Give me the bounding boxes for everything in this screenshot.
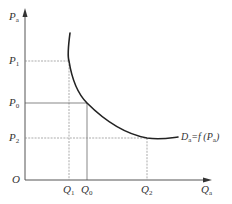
y-axis-label: Pa (9, 11, 19, 24)
x-tick-q0: Q0 (81, 184, 92, 197)
guide-lines (25, 61, 147, 180)
y-axis-arrow-icon (23, 8, 28, 17)
y-tick-p1-sub: 1 (16, 60, 20, 68)
x-tick-q1-base: Q (63, 183, 71, 195)
origin-label: O (12, 174, 20, 185)
x-tick-q1: Q1 (63, 184, 74, 197)
x-tick-q2: Q2 (141, 184, 152, 197)
x-tick-q1-sub: 1 (71, 189, 75, 197)
x-tick-q0-sub: 0 (89, 189, 93, 197)
y-tick-p0: P0 (9, 97, 19, 110)
demand-curve (68, 33, 178, 139)
y-tick-p2-sub: 2 (16, 137, 20, 145)
curve-label-end: ) (216, 131, 219, 142)
y-tick-p0-base: P (9, 96, 16, 108)
y-tick-p2: P2 (9, 132, 19, 145)
y-tick-p1: P1 (9, 55, 19, 68)
x-axis-label: Qa (201, 184, 212, 197)
x-tick-q2-base: Q (141, 183, 149, 195)
x-axis-arrow-icon (203, 178, 212, 183)
x-tick-q0-base: Q (81, 183, 89, 195)
y-tick-p0-sub: 0 (16, 102, 20, 110)
y-axis-label-base: P (9, 10, 16, 22)
x-tick-q2-sub: 2 (149, 189, 153, 197)
x-axis-label-sub: a (209, 189, 212, 197)
curve-label: Da=f (Pa) (181, 132, 219, 144)
y-tick-p1-base: P (9, 54, 16, 66)
y-tick-p2-base: P (9, 131, 16, 143)
y-axis-label-sub: a (16, 16, 19, 24)
x-axis-label-base: Q (201, 183, 209, 195)
demand-curve-chart (0, 0, 232, 204)
curve-label-rest: =f (P (191, 131, 212, 142)
